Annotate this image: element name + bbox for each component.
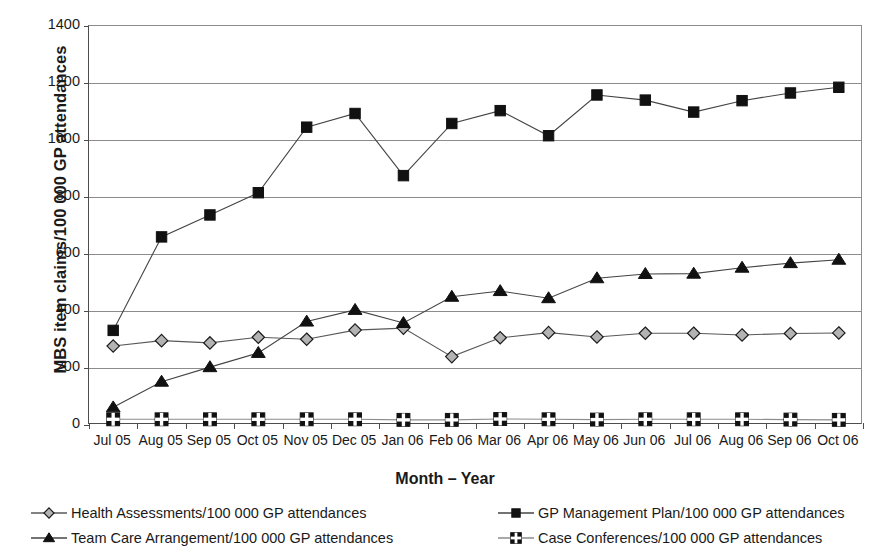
y-tick-label: 600 (18, 245, 80, 260)
data-point-marker (107, 340, 119, 352)
legend-label: Case Conferences/100 000 GP attendances (538, 531, 822, 546)
x-tick-mark (718, 423, 719, 429)
x-tick-mark (766, 423, 767, 429)
x-tick-mark (863, 423, 864, 429)
series-1 (108, 82, 844, 336)
legend-item-gp-management-plan[interactable]: GP Management Plan/100 000 GP attendance… (497, 505, 845, 521)
x-tick-label: Jul 06 (674, 432, 711, 448)
x-tick-mark (815, 423, 816, 429)
data-point-marker (253, 188, 263, 198)
data-point-marker (349, 324, 361, 336)
x-tick-mark (234, 423, 235, 429)
data-point-marker (43, 533, 54, 542)
data-point-marker (300, 333, 312, 345)
x-tick-label: Nov 05 (284, 432, 328, 448)
plot-area (88, 25, 862, 424)
x-tick-mark (379, 423, 380, 429)
data-point-marker (832, 253, 846, 264)
y-tick-label: 1400 (18, 17, 80, 32)
data-point-marker (834, 82, 844, 92)
legend-label: GP Management Plan/100 000 GP attendance… (538, 506, 845, 521)
data-point-marker (687, 413, 700, 426)
x-tick-label: Mar 06 (477, 432, 521, 448)
data-point-marker (106, 401, 120, 412)
data-point-marker (445, 413, 458, 426)
data-point-marker (203, 413, 216, 426)
data-point-marker (494, 413, 507, 426)
x-tick-mark (476, 423, 477, 429)
data-point-marker (301, 122, 311, 132)
x-tick-mark (331, 423, 332, 429)
x-tick-label: Sep 06 (767, 432, 811, 448)
data-point-marker (688, 107, 698, 117)
legend-item-case-conferences[interactable]: Case Conferences/100 000 GP attendances (497, 530, 822, 546)
data-point-marker (155, 413, 168, 426)
data-point-marker (349, 413, 362, 426)
legend-marker-square-icon (497, 505, 535, 521)
y-tick-label: 800 (18, 188, 80, 203)
data-point-marker (590, 413, 603, 426)
data-point-marker (591, 331, 603, 343)
data-point-marker (592, 90, 602, 100)
legend-marker-triangle-icon (30, 530, 68, 546)
data-point-marker (736, 329, 748, 341)
y-tick-label: 0 (18, 416, 80, 431)
x-tick-label: Dec 05 (332, 432, 376, 448)
x-tick-label: Sep 05 (187, 432, 231, 448)
data-point-marker (350, 108, 360, 118)
data-point-marker (542, 413, 555, 426)
data-point-marker (785, 88, 795, 98)
y-axis-title: MBS item claims/100 000 GP attendances (51, 0, 70, 420)
x-tick-label: Feb 06 (429, 432, 473, 448)
data-point-marker (398, 170, 408, 180)
series-0 (107, 322, 845, 363)
x-tick-mark (137, 423, 138, 429)
data-point-marker (639, 413, 652, 426)
data-point-marker (205, 210, 215, 220)
data-point-marker (108, 325, 118, 335)
x-tick-label: Aug 06 (719, 432, 763, 448)
data-point-marker (447, 118, 457, 128)
line-chart: MBS item claims/100 000 GP attendances 0… (0, 0, 890, 558)
x-axis-title: Month – Year (0, 470, 890, 488)
data-point-marker (252, 413, 265, 426)
x-tick-mark (670, 423, 671, 429)
data-point-marker (833, 327, 845, 339)
data-point-marker (251, 346, 265, 357)
data-point-marker (736, 413, 749, 426)
legend-marker-plus-square-icon (497, 530, 535, 546)
data-point-marker (542, 326, 554, 338)
y-tick-label: 200 (18, 359, 80, 374)
data-point-marker (543, 131, 553, 141)
data-point-marker (44, 508, 54, 518)
legend-item-health-assessments[interactable]: Health Assessments/100 000 GP attendance… (30, 505, 367, 521)
data-point-marker (494, 332, 506, 344)
series-2 (106, 253, 845, 412)
data-point-marker (784, 257, 798, 268)
data-point-marker (348, 303, 362, 314)
data-point-marker (511, 533, 522, 544)
data-point-marker (156, 232, 166, 242)
x-tick-label: Jul 05 (94, 432, 131, 448)
y-tick-label: 400 (18, 302, 80, 317)
data-point-marker (512, 509, 520, 517)
data-point-marker (639, 327, 651, 339)
data-point-marker (107, 413, 120, 426)
y-tick-label: 1200 (18, 74, 80, 89)
data-point-marker (493, 285, 507, 296)
data-point-marker (300, 413, 313, 426)
legend-item-team-care-arrangement[interactable]: Team Care Arrangement/100 000 GP attenda… (30, 530, 393, 546)
x-tick-mark (621, 423, 622, 429)
x-tick-label: Jan 06 (381, 432, 423, 448)
x-tick-label: Apr 06 (527, 432, 568, 448)
data-point-marker (638, 268, 652, 279)
series-layer (89, 26, 863, 425)
x-tick-mark (283, 423, 284, 429)
x-tick-mark (89, 423, 90, 429)
legend-label: Health Assessments/100 000 GP attendance… (71, 506, 367, 521)
legend-label: Team Care Arrangement/100 000 GP attenda… (71, 531, 393, 546)
legend-marker-diamond-icon (30, 505, 68, 521)
data-point-marker (832, 413, 845, 426)
data-point-marker (495, 105, 505, 115)
x-tick-label: Aug 05 (138, 432, 182, 448)
